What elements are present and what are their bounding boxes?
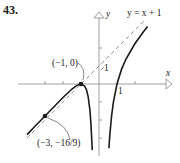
callout-leader-1	[78, 63, 84, 80]
point-minus3-minus16-9	[43, 114, 48, 119]
x-axis	[18, 79, 172, 89]
curve-right-branch	[109, 27, 148, 149]
graph: y x 1 1 y = x + 1 (−1, 0) (−3, −16/9)	[0, 0, 180, 163]
callout-leader-2	[48, 118, 70, 140]
x-tick-label-1: 1	[118, 86, 123, 96]
x-axis-label: x	[165, 68, 171, 78]
point-minus1-0	[79, 82, 84, 87]
y-tick-label-1: 1	[104, 63, 109, 73]
x-axis-arrow-icon	[166, 79, 172, 89]
y-axis-label: y	[105, 9, 111, 19]
point-label-minus3-minus16-9: (−3, −16/9)	[37, 138, 80, 149]
point-label-minus1-0: (−1, 0)	[52, 58, 78, 69]
asymptote-label: y = x + 1	[127, 8, 162, 18]
slant-asymptote	[27, 21, 144, 138]
y-axis-arrow-icon	[94, 12, 104, 18]
